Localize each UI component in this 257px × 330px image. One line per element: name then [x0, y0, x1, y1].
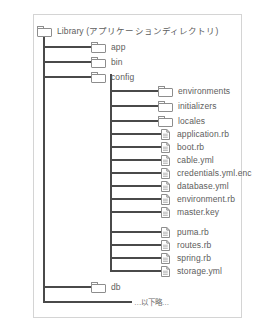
tree-node-label: puma.rb	[177, 227, 209, 238]
tree-node-master-key[interactable]: master.key	[158, 205, 219, 220]
tree-node-label: environment.rb	[177, 194, 235, 205]
file-icon	[161, 227, 170, 238]
tree-node-label: app	[111, 42, 125, 53]
file-icon	[161, 168, 170, 179]
branch-config-child	[110, 105, 165, 107]
tree-node-environments[interactable]: environments	[158, 84, 230, 99]
tree-node-label: credentials.yml.enc	[177, 168, 252, 179]
file-icon	[161, 266, 170, 277]
branch-config	[43, 76, 98, 78]
tree-node-label: environments	[178, 86, 230, 97]
tree-node-label: bin	[111, 57, 123, 68]
tree-node-app[interactable]: app	[91, 40, 125, 55]
folder-icon	[91, 282, 106, 293]
tree-node-label: initializers	[178, 101, 217, 112]
tree-footer-note-label: …以下略…	[134, 297, 169, 308]
tree-node-label: config	[111, 72, 134, 83]
tree-node-label: locales	[178, 116, 205, 127]
folder-icon	[91, 42, 106, 53]
tree-node-label: database.yml	[177, 181, 229, 192]
tree-node-label: db	[111, 282, 121, 293]
file-icon	[161, 142, 170, 153]
tree-node-label: application.rb	[177, 129, 229, 140]
tree-node-initializers[interactable]: initializers	[158, 99, 217, 114]
tree-node-bin[interactable]: bin	[91, 55, 123, 70]
tree-node-label: routes.rb	[177, 240, 211, 251]
branch-footer-note	[43, 301, 132, 303]
directory-tree-diagram: Library (アプリケーションディレクトリ) app bin config …	[0, 0, 257, 330]
branch-config-child	[110, 120, 165, 122]
tree-node-label: storage.yml	[177, 266, 222, 277]
file-icon	[161, 240, 170, 251]
tree-node-label: master.key	[177, 207, 219, 218]
tree-node-label: spring.rb	[177, 253, 211, 264]
branch-app	[43, 46, 98, 48]
folder-icon	[158, 101, 173, 112]
file-icon	[161, 129, 170, 140]
file-icon	[161, 155, 170, 166]
tree-node-library[interactable]: Library (アプリケーションディレクトリ)	[37, 24, 218, 39]
tree-node-storage-yml[interactable]: storage.yml	[158, 264, 222, 279]
file-icon	[161, 181, 170, 192]
file-icon	[161, 194, 170, 205]
tree-footer-note: …以下略…	[134, 295, 169, 310]
tree-node-label: boot.rb	[177, 142, 204, 153]
tree-node-label: Library (アプリケーションディレクトリ)	[57, 26, 218, 37]
folder-icon	[37, 26, 52, 37]
folder-icon	[158, 86, 173, 97]
folder-icon	[91, 57, 106, 68]
branch-bin	[43, 61, 98, 63]
folder-icon	[91, 72, 106, 83]
tree-node-config[interactable]: config	[91, 70, 134, 85]
branch-db	[43, 286, 98, 288]
branch-config-child	[110, 90, 165, 92]
file-icon	[161, 253, 170, 264]
folder-icon	[158, 116, 173, 127]
tree-node-label: cable.yml	[177, 155, 214, 166]
tree-connector-layer	[0, 0, 257, 330]
tree-node-db[interactable]: db	[91, 280, 121, 295]
file-icon	[161, 207, 170, 218]
